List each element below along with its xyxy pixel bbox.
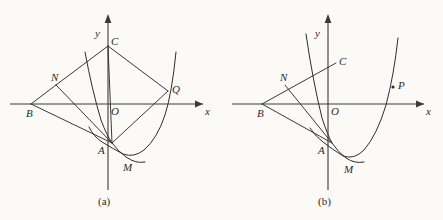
panel-a-segment-B-A (31, 104, 112, 143)
figure-canvas (0, 0, 443, 220)
panel-b-wide-parabola (310, 38, 398, 157)
panel-b-point-label-C: C (339, 56, 346, 67)
panel-b-origin-label: O (331, 106, 339, 117)
panel-a-point-label-B: B (26, 108, 33, 119)
panel-a-point-label-Q: Q (172, 84, 180, 95)
panel-a-point-label-N: N (51, 72, 58, 83)
panel-a-point-label-A: A (98, 145, 105, 156)
panel-a-segment-C-Q (108, 46, 168, 91)
panel-b-point-label-N: N (280, 72, 287, 83)
panel-a-segment-N-C (56, 46, 108, 85)
panel-b-x-axis-label: x (426, 106, 431, 117)
panel-b-point-P-dot (391, 85, 394, 88)
panel-a-x-axis-arrow (195, 101, 203, 108)
panel-a-y-axis-label: y (95, 28, 100, 39)
panel-b-segment-B-A (262, 104, 332, 143)
panel-a-y-axis-arrow (105, 14, 112, 23)
panel-b-x-axis-arrow (416, 101, 424, 108)
panel-a-caption: (a) (98, 196, 110, 207)
panel-b-point-label-A: A (318, 145, 325, 156)
panel-a-graphics (10, 14, 203, 190)
panel-b-graphics (232, 14, 424, 190)
panel-b-narrow-parabola (306, 34, 364, 163)
geometry-figure-pair: y x O C N Q B A M (a) y x O C N P B A M … (0, 0, 443, 220)
panel-a-point-label-C: C (111, 36, 118, 47)
panel-b-y-axis-arrow (325, 14, 332, 23)
panel-b-caption: (b) (318, 196, 331, 207)
panel-a-x-axis-label: x (205, 106, 210, 117)
panel-b-point-label-P: P (398, 80, 405, 91)
panel-a-segment-C-A (108, 46, 112, 143)
panel-a-segment-B-N (31, 85, 56, 104)
panel-a-segment-Q-A (112, 91, 168, 143)
panel-a-point-label-M: M (123, 162, 132, 173)
panel-a-origin-label: O (111, 106, 119, 117)
panel-a-segment-N-A (56, 85, 112, 143)
panel-b-y-axis-label: y (315, 28, 320, 39)
panel-b-point-label-B: B (257, 108, 264, 119)
panel-b-point-label-M: M (344, 164, 353, 175)
panel-b-segment-B-N-C (262, 63, 336, 104)
panel-b-segment-N-A (285, 85, 332, 143)
